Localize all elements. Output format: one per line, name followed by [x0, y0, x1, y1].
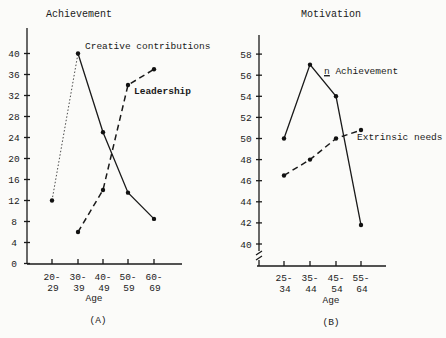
x-tick-label: 20- — [43, 272, 60, 283]
chart-b-x-label: Age — [322, 295, 339, 306]
y-tick-label: 28 — [8, 112, 20, 123]
x-tick-label: 30- — [69, 272, 86, 283]
data-point — [334, 136, 338, 140]
series-line-creative — [52, 54, 78, 201]
data-point — [50, 198, 54, 202]
x-tick-label: 54 — [331, 284, 343, 295]
x-tick-label: 29 — [47, 283, 59, 294]
y-tick-label: 20 — [8, 154, 20, 165]
chart-a-panel-label: (A) — [89, 315, 106, 326]
data-point — [308, 62, 312, 66]
y-tick-label: 44 — [240, 197, 252, 208]
chart-b: Motivation 40424446485052545658 25-3435-… — [240, 9, 442, 328]
data-point — [282, 136, 286, 140]
data-point — [76, 230, 80, 234]
x-tick-label: 59 — [123, 283, 135, 294]
x-tick-label: 34 — [279, 284, 291, 295]
chart-b-title: Motivation — [301, 9, 361, 20]
y-tick-label: 8 — [11, 217, 17, 228]
y-tick-label: 12 — [8, 196, 20, 207]
data-point — [152, 217, 156, 221]
chart-b-legend-extrinsic: Extrinsic needs — [357, 132, 443, 143]
data-point — [126, 83, 130, 87]
y-tick-label: 54 — [240, 92, 252, 103]
data-point — [334, 94, 338, 98]
data-point — [308, 157, 312, 161]
y-tick-label: 4 — [11, 238, 17, 249]
x-tick-label: 35- — [301, 273, 318, 284]
x-tick-label: 44 — [305, 284, 317, 295]
y-tick-label: 40 — [8, 49, 20, 60]
x-tick-label: 55- — [352, 273, 369, 284]
y-tick-label: 36 — [8, 70, 20, 81]
chart-b-axis-break-icon — [256, 251, 262, 266]
data-point — [126, 190, 130, 194]
chart-b-legend-n-achievement: n Achievement — [324, 66, 398, 77]
y-tick-label: 24 — [8, 133, 20, 144]
y-tick-label: 50 — [240, 134, 252, 145]
y-tick-label: 0 — [11, 259, 17, 270]
chart-a-legend-leadership: Leadership — [134, 86, 191, 97]
y-tick-label: 56 — [240, 71, 252, 82]
x-tick-label: 60- — [145, 272, 162, 283]
chart-a-x-label: Age — [85, 293, 102, 304]
chart-a-series — [50, 51, 156, 234]
data-point — [101, 188, 105, 192]
y-tick-label: 48 — [240, 155, 252, 166]
chart-b-panel-label: (B) — [322, 317, 339, 328]
chart-a-legend-creative: Creative contributions — [85, 41, 210, 52]
x-tick-label: 39 — [73, 283, 85, 294]
chart-a: Achievement 0481216202428323640 20-2930-… — [8, 9, 210, 326]
y-tick-label: 16 — [8, 175, 20, 186]
y-tick-label: 46 — [240, 176, 252, 187]
x-tick-label: 40- — [94, 272, 111, 283]
series-line-n-achievement — [284, 65, 361, 225]
data-point — [101, 130, 105, 134]
x-tick-label: 45- — [327, 273, 344, 284]
y-tick-label: 52 — [240, 113, 252, 124]
y-tick-label: 32 — [8, 91, 20, 102]
x-tick-label: 25- — [275, 273, 292, 284]
data-point — [359, 223, 363, 227]
chart-a-title: Achievement — [46, 9, 112, 20]
x-tick-label: 69 — [149, 283, 161, 294]
data-point — [152, 67, 156, 71]
data-point — [282, 173, 286, 177]
chart-b-series — [282, 62, 363, 227]
y-tick-label: 58 — [240, 50, 252, 61]
chart-canvas: Achievement 0481216202428323640 20-2930-… — [0, 0, 446, 338]
y-tick-label: 40 — [240, 240, 252, 251]
x-tick-label: 50- — [119, 272, 136, 283]
y-tick-label: 42 — [240, 218, 252, 229]
data-point — [76, 51, 80, 55]
x-tick-label: 64 — [356, 284, 368, 295]
